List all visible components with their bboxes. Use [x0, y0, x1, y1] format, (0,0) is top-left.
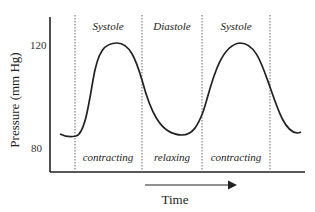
- pressure-curve: [60, 43, 301, 137]
- y-axis-title: Pressure (mm Hg): [7, 52, 22, 147]
- y-tick-80: 80: [31, 142, 43, 154]
- phase-label-contracting-1: contracting: [83, 151, 134, 163]
- x-axis-title: Time: [162, 192, 189, 207]
- pressure-time-diagram: 120 80 Pressure (mm Hg) Systole Diastole…: [0, 0, 315, 212]
- y-tick-120: 120: [30, 39, 47, 51]
- phase-label-diastole: Diastole: [152, 20, 190, 32]
- time-arrow-head-icon: [228, 181, 237, 190]
- phase-label-contracting-2: contracting: [211, 151, 262, 163]
- phase-label-systole-1: Systole: [92, 20, 123, 32]
- phase-label-systole-2: Systole: [220, 20, 251, 32]
- phase-label-relaxing: relaxing: [154, 151, 191, 163]
